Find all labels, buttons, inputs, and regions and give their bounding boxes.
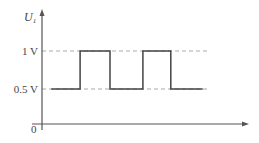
square-wave-line xyxy=(51,51,202,89)
x-axis-arrow-icon xyxy=(242,122,249,127)
y-axis-label-subscript: 1 xyxy=(33,17,37,25)
y-axis-label: U1 xyxy=(24,10,36,25)
y-tick-label-0: 1 V xyxy=(22,45,38,57)
y-tick-label-1: 0.5 V xyxy=(14,83,38,95)
y-axis-arrow-icon xyxy=(40,9,45,16)
square-wave-chart: U1 0 1 V0.5 V xyxy=(0,0,259,143)
origin-label: 0 xyxy=(31,123,37,135)
